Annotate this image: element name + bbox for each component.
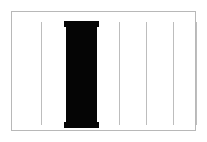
figure-root (0, 0, 207, 142)
chart-ylabel (0, 0, 1, 1)
gridline-4 (173, 22, 174, 125)
gridline-2 (119, 22, 120, 125)
bar-1-stem (66, 26, 97, 123)
plot-area (12, 12, 195, 130)
bar-1-value-label (12, 12, 13, 13)
gridline-5 (196, 22, 197, 125)
chart-title (0, 0, 1, 1)
gridline-3 (146, 22, 147, 125)
chart-xlabel (0, 0, 1, 1)
gridline-1 (41, 22, 42, 125)
plot-panel (11, 11, 196, 131)
bar-1-cap-bottom (64, 122, 99, 128)
